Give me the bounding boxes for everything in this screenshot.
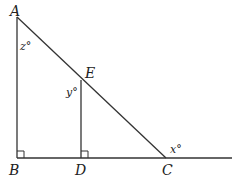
label-e: E xyxy=(84,65,95,81)
label-a: A xyxy=(8,3,20,19)
angle-y-label: y° xyxy=(65,86,78,99)
label-c: C xyxy=(162,162,173,178)
segment-ac xyxy=(17,17,166,158)
angle-z-label: z° xyxy=(19,40,31,53)
label-b: B xyxy=(8,162,19,178)
right-angle-marker-d xyxy=(81,151,88,158)
geometry-diagram: A B D C E z° y° x° xyxy=(0,0,239,181)
right-angle-marker-b xyxy=(17,151,24,158)
label-d: D xyxy=(74,162,86,178)
angle-x-label: x° xyxy=(170,143,182,156)
